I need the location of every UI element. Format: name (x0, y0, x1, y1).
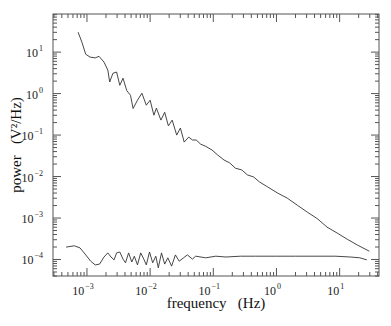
x-axis-title: frequency (Hz) (167, 295, 266, 312)
upper-spectrum-line (78, 32, 369, 251)
data-series (66, 32, 369, 268)
y-axis-title: power (V²/Hz) (8, 97, 25, 193)
x-tick-label: 10−2 (135, 282, 157, 298)
x-tick-label: 10−3 (72, 282, 94, 298)
y-ticks (53, 15, 379, 276)
y-tick-label: 101 (26, 44, 43, 60)
x-ticks (54, 14, 378, 276)
plot-frame (53, 14, 379, 276)
y-tick-label: 10−3 (21, 210, 43, 226)
y-tick-label: 10−2 (21, 169, 43, 185)
y-tick-label: 10−4 (21, 251, 43, 267)
y-tick-label: 10−1 (21, 127, 43, 143)
lower-spectrum-line (66, 246, 367, 268)
y-tick-labels: 10110010−110−210−310−4 (21, 44, 43, 267)
y-tick-label: 100 (26, 86, 43, 102)
x-tick-label: 100 (264, 282, 281, 298)
x-tick-label: 101 (327, 282, 344, 298)
power-spectrum-chart: 10−310−210−1100101 10110010−110−210−310−… (0, 0, 391, 326)
